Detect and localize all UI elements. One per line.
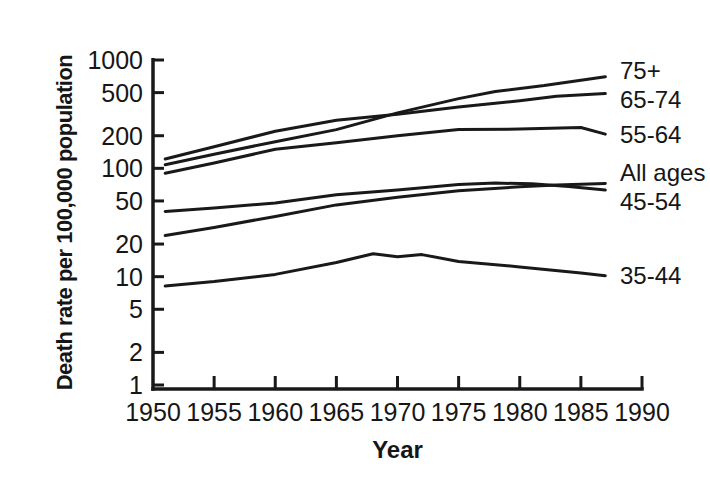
death-rate-line-chart: 1000500200100502010521195019551960196519… bbox=[0, 0, 710, 483]
x-tick-label: 1980 bbox=[492, 398, 548, 426]
x-tick-label: 1970 bbox=[370, 398, 426, 426]
x-axis-title: Year bbox=[372, 436, 423, 463]
y-tick-label: 500 bbox=[101, 79, 143, 107]
y-tick-label: 20 bbox=[115, 230, 143, 258]
x-tick-label: 1990 bbox=[614, 398, 670, 426]
series-label-65-74: 65-74 bbox=[620, 86, 681, 113]
chart-figure: 1000500200100502010521195019551960196519… bbox=[0, 0, 710, 483]
series-label-75: 75+ bbox=[620, 57, 661, 84]
series-label-all-ages: All ages bbox=[620, 159, 705, 186]
x-tick-label: 1985 bbox=[553, 398, 609, 426]
y-tick-label: 5 bbox=[129, 295, 143, 323]
y-tick-label: 10 bbox=[115, 263, 143, 291]
y-tick-label: 100 bbox=[101, 154, 143, 182]
y-tick-label: 2 bbox=[129, 338, 143, 366]
y-tick-label: 50 bbox=[115, 187, 143, 215]
x-tick-label: 1965 bbox=[309, 398, 365, 426]
series-label-35-44: 35-44 bbox=[620, 262, 681, 289]
series-label-45-54: 45-54 bbox=[620, 188, 681, 215]
y-tick-label: 200 bbox=[101, 122, 143, 150]
y-axis-title: Death rate per 100,000 population bbox=[52, 55, 77, 391]
x-tick-label: 1950 bbox=[125, 398, 181, 426]
series-label-55-64: 55-64 bbox=[620, 121, 681, 148]
y-tick-label: 1000 bbox=[87, 46, 143, 74]
x-tick-label: 1955 bbox=[186, 398, 242, 426]
y-tick-label: 1 bbox=[129, 371, 143, 399]
x-tick-label: 1960 bbox=[247, 398, 303, 426]
x-tick-label: 1975 bbox=[431, 398, 487, 426]
